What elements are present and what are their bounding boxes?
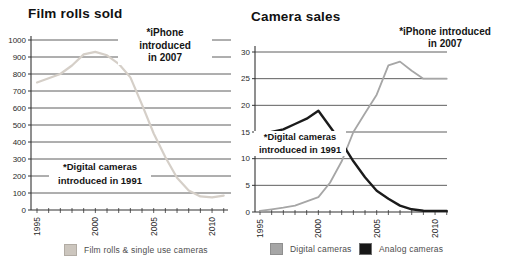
y-tick-label: 0 [246,208,251,217]
legend-item-analog-cameras: Analog cameras [359,243,443,255]
analog-cameras-swatch-icon [359,243,372,255]
x-tick-label: 1995 [32,217,42,236]
y-tick-label: 700 [13,87,27,96]
annotation-line: introduced in 1991 [255,144,345,157]
y-tick-label: 10 [241,154,250,163]
annotation-iphone-camera: *iPhone introduced in 2007 [388,26,502,50]
dual-line-chart-infographic: 0100200300400500600700800900100019952000… [0,0,508,273]
annotation-line: *iPhone [119,27,211,40]
y-tick-label: 15 [241,128,250,137]
y-tick-label: 800 [13,70,27,79]
film-chart-title: Film rolls sold [26,6,125,21]
legend-label: Film rolls & single use cameras [84,245,208,255]
x-tick-label: 2005 [149,217,159,236]
film-rolls-swatch-icon [64,244,77,256]
digital-cameras-swatch-icon [270,243,283,255]
annotation-line: in 2007 [119,52,211,65]
annotation-line: introduced [119,40,211,53]
y-tick-label: 200 [13,172,27,181]
y-tick-label: 5 [246,181,251,190]
y-tick-label: 25 [241,74,250,83]
y-tick-label: 400 [13,138,27,147]
y-tick-label: 600 [13,104,27,113]
annotation-line: introduced in 1991 [50,174,150,188]
x-tick-label: 2005 [372,219,382,238]
y-tick-label: 30 [241,48,250,57]
y-tick-label: 100 [13,189,27,198]
legend-label: Analog cameras [379,244,443,254]
x-tick-label: 2000 [313,219,323,238]
x-tick-label: 2010 [207,217,217,236]
x-tick-label: 2000 [90,217,100,236]
annotation-line: *Digital cameras [255,131,345,144]
x-tick-label: 1995 [255,219,265,238]
y-tick-label: 20 [241,101,250,110]
series-line-analog-cameras [260,111,447,211]
annotation-line: *Digital cameras [50,160,150,174]
y-tick-label: 1000 [8,36,26,45]
x-tick-label: 2010 [430,219,440,238]
y-tick-label: 0 [22,206,27,215]
y-tick-label: 500 [13,121,27,130]
legend-item-digital-cameras: Digital cameras [270,243,352,255]
annotation-digital-film: *Digital cameras introduced in 1991 [49,160,151,187]
legend-label: Digital cameras [290,244,352,254]
annotation-line: in 2007 [389,38,501,50]
annotation-iphone-film: *iPhone introduced in 2007 [118,27,212,65]
y-tick-label: 900 [13,53,27,62]
y-tick-label: 300 [13,155,27,164]
annotation-digital-camera: *Digital cameras introduced in 1991 [254,131,346,156]
legend-item-film-rolls: Film rolls & single use cameras [64,244,208,256]
annotation-line: *iPhone introduced [389,26,501,38]
camera-chart-title: Camera sales [249,9,342,24]
